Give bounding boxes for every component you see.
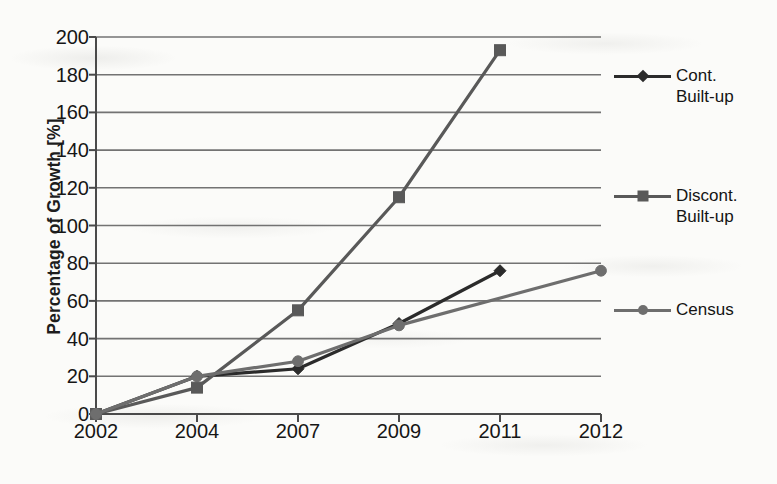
legend-marker-circle-icon xyxy=(638,305,648,315)
legend-marker-square-icon xyxy=(637,191,648,202)
legend-swatch xyxy=(614,67,671,85)
chart-legend: Cont. Built-upDiscont. Built-upCensus xyxy=(614,0,777,484)
legend-label: Discont. Built-up xyxy=(676,186,737,227)
legend-marker-diamond-icon xyxy=(636,70,649,83)
legend-label: Census xyxy=(676,300,734,321)
x-tick-label-2002: 2002 xyxy=(51,420,141,443)
x-tick-label-2007: 2007 xyxy=(253,420,343,443)
x-tick-label-2011: 2011 xyxy=(455,420,545,443)
legend-swatch xyxy=(614,301,671,319)
x-tick-label-2009: 2009 xyxy=(354,420,444,443)
line-chart: Percentage of Growth [%] 200180160140120… xyxy=(0,0,777,484)
legend-item-census[interactable]: Census xyxy=(614,300,777,321)
legend-item-discont-built-up[interactable]: Discont. Built-up xyxy=(614,186,777,227)
legend-label: Cont. Built-up xyxy=(676,66,734,107)
legend-item-cont-built-up[interactable]: Cont. Built-up xyxy=(614,66,777,107)
x-tick-label-2004: 2004 xyxy=(152,420,242,443)
legend-swatch xyxy=(614,187,671,205)
